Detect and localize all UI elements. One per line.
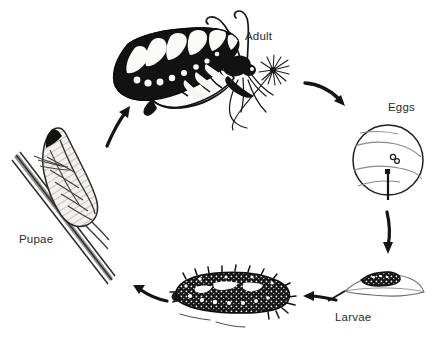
stage-label-eggs: Eggs [388, 102, 415, 114]
stage-label-adult: Adult [245, 31, 272, 43]
stage-label-pupae: Pupae [19, 234, 53, 246]
stage-label-larvae: Larvae [335, 312, 371, 324]
life-cycle-illustration [0, 0, 438, 341]
butterfly-life-cycle-diagram: Adult Eggs Larvae Pupae [0, 0, 438, 341]
